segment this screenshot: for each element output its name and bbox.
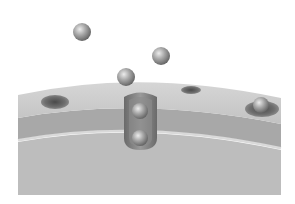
particle-in-pore-right — [253, 97, 269, 113]
particle-free-1 — [73, 23, 91, 41]
membrane-diagram — [0, 0, 295, 204]
particle-free-2 — [152, 47, 170, 65]
pore-center-right — [181, 86, 201, 94]
particle-in-channel-upper — [132, 103, 148, 119]
particle-entering — [117, 68, 135, 86]
diagram-stage — [0, 0, 295, 204]
particle-in-channel-lower — [132, 130, 148, 146]
pore-left — [41, 95, 69, 109]
